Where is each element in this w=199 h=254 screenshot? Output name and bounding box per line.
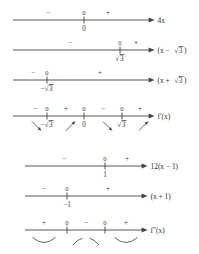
row-4x-sign-1: + (106, 9, 110, 17)
row-x-plus-sqrt3-label-paren: ) (184, 76, 187, 85)
row-f-double-prime-zero-1: 0 (103, 219, 107, 226)
row-f-prime-sign-1: + (64, 105, 68, 113)
row-4x-label: 4x (158, 16, 166, 25)
row-f-double-prime-sign-2: + (124, 219, 128, 227)
row-f-prime-tick-value-1: 0 (82, 121, 86, 129)
row-x-minus-sqrt3-sign-1: + (134, 39, 138, 47)
row-x-minus-sqrt3-tick-value-0-radicand: 3 (120, 55, 124, 63)
row-f-double-prime-concave-down-left-1 (73, 238, 83, 245)
row-12x-minus-1-label: 12(x − 1) (151, 162, 179, 171)
row-12x-minus-1-sign-0: − (62, 155, 66, 163)
row-f-double-prime-sign-0: + (42, 219, 46, 227)
row-x-plus-sqrt3-label-radical: √ (174, 77, 178, 85)
row-x-plus-1-sign-0: − (42, 185, 46, 193)
row-4x: 0−+04x (13, 9, 165, 33)
row-f-prime-tick-value-0: √ (44, 121, 48, 129)
row-f-prime-arrow-down-2 (103, 122, 112, 131)
row-f-prime-tick-value-2: √ (117, 121, 121, 129)
row-4x-zero-0: 0 (82, 9, 86, 16)
row-x-plus-sqrt3-label-radical-radicand: 3 (179, 77, 183, 85)
row-x-plus-1-label: (x + 1) (151, 192, 172, 201)
row-f-double-prime-concave-up-0 (33, 238, 56, 243)
row-x-plus-sqrt3-sign-1: + (98, 69, 102, 77)
row-f-prime-sign-3: + (138, 105, 142, 113)
row-f-prime-zero-2: 0 (120, 105, 124, 112)
row-x-minus-sqrt3-tick-value-0: √ (115, 55, 119, 63)
row-x-plus-1: −1−+0(x + 1) (25, 185, 171, 209)
row-4x-arrowhead (149, 18, 155, 23)
row-f-prime-arrow-up-1 (66, 122, 75, 131)
row-f-prime-label: f′(x) (158, 112, 171, 121)
row-x-plus-sqrt3-tick-value-0: √ (44, 85, 48, 93)
row-x-minus-sqrt3-label-radical-radicand: 3 (179, 47, 183, 55)
first-derivative-group: 0−+04x√3−+0(x − √3)−√3−+0(x + √3)−√30√3−… (13, 9, 187, 131)
row-f-double-prime-concave-down-right-1 (90, 238, 100, 245)
row-12x-minus-1: 1−+012(x − 1) (25, 155, 179, 179)
sign-chart-figure: 0−+04x√3−+0(x − √3)−√3−+0(x + √3)−√30√3−… (0, 0, 199, 254)
row-12x-minus-1-tick-value-0: 1 (103, 171, 107, 179)
row-f-prime-arrowhead (149, 114, 155, 119)
row-f-prime-zero-1: 0 (82, 105, 86, 112)
row-x-plus-sqrt3-zero-0: 0 (45, 69, 49, 76)
row-f-double-prime-label: f″(x) (151, 226, 166, 235)
row-12x-minus-1-zero-0: 0 (103, 155, 107, 162)
row-f-double-prime: +−+00f″(x) (25, 219, 165, 245)
row-x-plus-1-sign-1: + (106, 185, 110, 193)
row-f-prime-tick-value-0-radicand: 3 (49, 121, 53, 129)
row-f-double-prime-sign-1: − (84, 219, 88, 227)
row-4x-sign-0: − (46, 9, 50, 17)
row-x-minus-sqrt3-sign-0: − (68, 39, 72, 47)
row-x-plus-1-arrowhead (142, 194, 148, 199)
row-x-plus-sqrt3-label: (x + (158, 76, 170, 85)
row-f-prime-sign-0: − (33, 105, 37, 113)
row-x-minus-sqrt3-label-radical: √ (174, 47, 178, 55)
row-12x-minus-1-arrowhead (142, 164, 148, 169)
row-f-prime-sign-2: − (101, 105, 105, 113)
row-x-minus-sqrt3-arrowhead (149, 48, 155, 53)
row-x-plus-1-tick-value-0: −1 (63, 201, 71, 209)
row-f-double-prime-concave-up-2 (115, 238, 138, 243)
row-x-minus-sqrt3-label-paren: ) (184, 46, 187, 55)
row-x-plus-sqrt3: −√3−+0(x + √3) (13, 69, 187, 93)
row-x-minus-sqrt3-label: (x − (158, 46, 170, 55)
row-f-prime: −√30√3−+−+000f′(x) (13, 105, 171, 131)
row-f-prime-tick-value-2-radicand: 3 (122, 121, 126, 129)
row-x-plus-sqrt3-arrowhead (149, 78, 155, 83)
sign-chart-canvas: 0−+04x√3−+0(x − √3)−√3−+0(x + √3)−√30√3−… (0, 0, 199, 254)
row-4x-tick-value-0: 0 (82, 25, 86, 33)
row-f-prime-arrow-up-3 (139, 122, 148, 131)
row-x-minus-sqrt3: √3−+0(x − √3) (13, 39, 187, 63)
row-x-minus-sqrt3-zero-0: 0 (118, 39, 122, 46)
row-x-plus-sqrt3-tick-value-0-radicand: 3 (49, 85, 53, 93)
row-x-plus-1-zero-0: 0 (65, 185, 69, 192)
row-f-double-prime-zero-0: 0 (65, 219, 69, 226)
row-x-plus-sqrt3-sign-0: − (31, 69, 35, 77)
row-f-double-prime-arrowhead (142, 228, 148, 233)
row-f-prime-zero-0: 0 (45, 105, 49, 112)
second-derivative-group: 1−+012(x − 1)−1−+0(x + 1)+−+00f″(x) (25, 155, 179, 245)
row-12x-minus-1-sign-1: + (125, 155, 129, 163)
